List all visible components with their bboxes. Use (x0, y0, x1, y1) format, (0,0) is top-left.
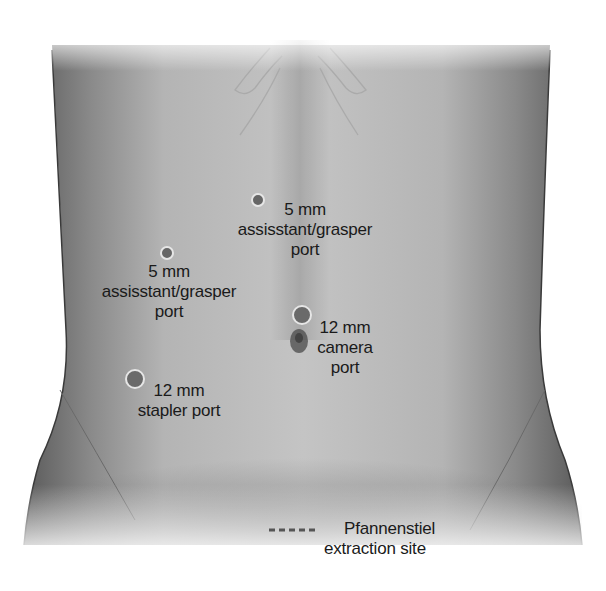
label-pfannenstiel-extraction-site: Pfannenstiel extraction site (330, 519, 435, 559)
label-size: 5 mm (225, 200, 385, 220)
label-port: port (85, 302, 253, 322)
label-extraction-site: extraction site (324, 539, 435, 559)
label-size: 12 mm (312, 318, 378, 338)
label-port: port (312, 358, 378, 378)
label-left-assistant-port: 5 mm assisstant/grasper port (85, 262, 253, 322)
label-port: port (225, 240, 385, 260)
label-role: assisstant/grasper (225, 220, 385, 240)
abdomen-diagram: 5 mm assisstant/grasper port 5 mm assiss… (0, 0, 606, 591)
label-role: assisstant/grasper (85, 282, 253, 302)
label-role: stapler port (128, 401, 230, 421)
label-pfannenstiel: Pfannenstiel (330, 519, 435, 539)
port-marker-left-assistant (160, 246, 174, 260)
label-camera-port: 12 mm camera port (312, 318, 378, 378)
label-size: 5 mm (85, 262, 253, 282)
label-size: 12 mm (128, 381, 230, 401)
label-role: camera (312, 338, 378, 358)
port-marker-camera (292, 305, 312, 325)
label-stapler-port: 12 mm stapler port (128, 381, 230, 421)
label-upper-assistant-port: 5 mm assisstant/grasper port (225, 200, 385, 260)
